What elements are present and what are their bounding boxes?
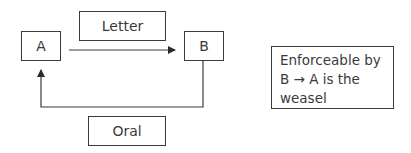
note-box: Enforceable by B → A is the weasel: [271, 46, 394, 109]
oral-arrow: [41, 61, 203, 107]
node-b: B: [184, 31, 224, 61]
note-text: Enforceable by B → A is the weasel: [280, 51, 393, 108]
oral-label-box: Oral: [88, 116, 166, 146]
letter-label-box: Letter: [79, 11, 166, 41]
oral-label: Oral: [112, 123, 141, 139]
node-b-label: B: [199, 38, 209, 54]
node-a-label: A: [36, 38, 46, 54]
letter-label: Letter: [102, 18, 144, 34]
node-a: A: [21, 31, 61, 61]
